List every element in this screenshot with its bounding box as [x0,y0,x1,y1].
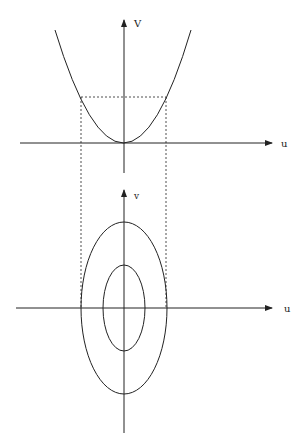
diagram-canvas: V u v u [0,0,305,446]
top-plot: V u [20,18,288,173]
parabola-curve [55,30,191,143]
bottom-plot: v u [16,190,291,433]
bottom-y-label: v [133,191,140,201]
top-y-label: V [133,18,142,29]
bottom-x-label: u [284,303,291,314]
top-x-label: u [281,138,288,149]
